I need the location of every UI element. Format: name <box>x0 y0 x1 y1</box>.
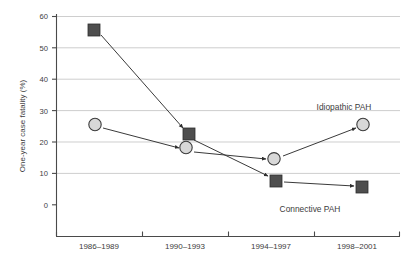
data-point-connective-1994-1997[interactable] <box>270 175 282 187</box>
annotation-connective-pah: Connective PAH <box>280 204 341 214</box>
x-tick-label-1990-1993: 1990–1993 <box>165 242 206 251</box>
y-tick-label-30: 30 <box>40 107 48 116</box>
gridlines <box>56 17 400 174</box>
y-axis: 60 50 40 30 20 10 0 One-year case fatali… <box>18 12 57 236</box>
annotation-idiopathic-pah: Idiopathic PAH <box>317 102 372 112</box>
connector-connective-3 <box>284 182 354 186</box>
x-tick-label-1994-1997: 1994–1997 <box>251 242 292 251</box>
data-point-idiopathic-1994-1997[interactable] <box>268 153 280 165</box>
series-annotations: Idiopathic PAH Connective PAH <box>280 102 372 214</box>
chart-figure: 60 50 40 30 20 10 0 One-year case fatali… <box>0 0 414 274</box>
data-point-connective-1986-1989[interactable] <box>88 24 100 36</box>
data-point-idiopathic-1986-1989[interactable] <box>89 118 101 130</box>
data-point-connective-1998-2001[interactable] <box>356 181 368 193</box>
x-axis: 1986–1989 1990–1993 1994–1997 1998–2001 <box>56 232 400 252</box>
x-tick-label-1998-2001: 1998–2001 <box>337 242 378 251</box>
y-axis-title: One-year case fatality (%) <box>18 79 27 172</box>
connector-idiopathic-1 <box>103 128 179 148</box>
chart-canvas: 60 50 40 30 20 10 0 One-year case fatali… <box>0 0 414 274</box>
connector-connective-1 <box>101 35 183 128</box>
y-tick-label-10: 10 <box>40 169 48 178</box>
x-tick-label-1986-1989: 1986–1989 <box>79 242 120 251</box>
y-tick-label-60: 60 <box>40 12 48 21</box>
data-point-idiopathic-1990-1993[interactable] <box>180 141 192 153</box>
y-tick-label-20: 20 <box>40 138 48 147</box>
y-tick-label-50: 50 <box>40 44 48 53</box>
y-tick-label-0: 0 <box>44 201 48 210</box>
y-tick-label-40: 40 <box>40 75 48 84</box>
data-point-connective-1990-1993[interactable] <box>183 128 195 140</box>
data-point-idiopathic-1998-2001[interactable] <box>357 118 369 130</box>
